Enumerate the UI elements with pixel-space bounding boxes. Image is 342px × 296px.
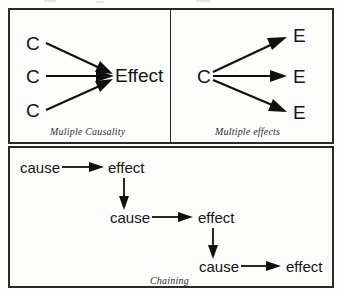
- chain-effect-2: effect: [198, 210, 234, 225]
- chain-cause-2: cause: [110, 210, 150, 225]
- chain-effect-3: effect: [286, 259, 322, 274]
- scan-artifact: [0, 0, 342, 6]
- chain-cause-1: cause: [20, 160, 60, 175]
- chain-effect-1: effect: [108, 160, 144, 175]
- chain-cause-3: cause: [199, 259, 239, 274]
- cause-node-2: C: [26, 67, 40, 86]
- panel-caption-multiple-effects: Multiple effects: [215, 126, 280, 137]
- panel-caption-chaining: Chaining: [150, 275, 189, 286]
- cause-node: C: [197, 67, 211, 86]
- effect-node-1: E: [293, 26, 306, 45]
- panel-multiple-effects: C E E E Multiple effects: [170, 8, 334, 144]
- panel-chaining: cause effect cause effect cause effect C…: [8, 146, 334, 288]
- cause-node-1: C: [26, 34, 40, 53]
- panel-caption-multiple-causality: Muliple Causality: [50, 126, 125, 137]
- figure-canvas: C C C Effect Muliple Causality C E E E M…: [0, 0, 342, 296]
- effect-node-3: E: [293, 103, 306, 122]
- effect-node: Effect: [115, 66, 163, 85]
- effect-node-2: E: [293, 67, 306, 86]
- cause-node-3: C: [26, 101, 40, 120]
- panel-multiple-causality: C C C Effect Muliple Causality: [8, 8, 171, 144]
